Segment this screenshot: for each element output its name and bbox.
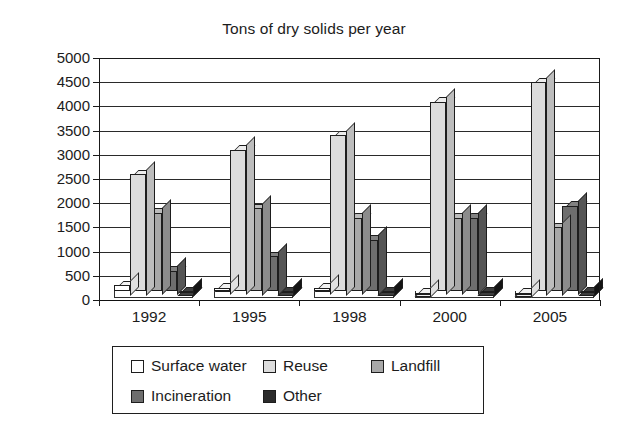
- y-axis-tick-mark: [93, 106, 99, 107]
- x-axis-tick-label: 2000: [400, 308, 500, 326]
- y-axis-tick-label: 500: [28, 268, 90, 283]
- y-axis-tick-label: 3000: [28, 147, 90, 162]
- legend-label: Landfill: [391, 357, 440, 375]
- y-axis-tick-label: 3500: [28, 123, 90, 138]
- x-axis-tick-mark: [99, 300, 100, 306]
- legend-label: Surface water: [151, 357, 247, 375]
- y-axis-tick-mark: [93, 203, 99, 204]
- legend-label: Other: [283, 387, 322, 405]
- x-axis-tick-mark: [400, 300, 401, 306]
- y-axis-tick-mark: [93, 82, 99, 83]
- plot-frame: [99, 58, 600, 300]
- y-axis-tick-mark: [93, 179, 99, 180]
- y-axis-tick-label: 1000: [28, 244, 90, 259]
- y-axis-tick-mark: [93, 276, 99, 277]
- y-axis-tick-mark: [93, 131, 99, 132]
- legend-swatch-icon: [131, 360, 144, 373]
- legend-swatch-icon: [371, 360, 384, 373]
- legend-entry[interactable]: Incineration: [131, 387, 231, 405]
- legend-entry[interactable]: Landfill: [371, 357, 440, 375]
- y-axis-tick-label: 5000: [28, 50, 90, 65]
- y-axis-tick-mark: [93, 155, 99, 156]
- legend-entry[interactable]: Reuse: [263, 357, 328, 375]
- legend-label: Reuse: [283, 357, 328, 375]
- y-axis-tick-label: 2500: [28, 171, 90, 186]
- y-axis-tick-label: 4000: [28, 98, 90, 113]
- legend-swatch-icon: [131, 390, 144, 403]
- legend-entry[interactable]: Surface water: [131, 357, 247, 375]
- x-axis-tick-label: 2005: [500, 308, 600, 326]
- y-axis-tick-mark: [93, 227, 99, 228]
- legend-row-2: IncinerationOther: [113, 381, 483, 411]
- legend-swatch-icon: [263, 390, 276, 403]
- legend-label: Incineration: [151, 387, 231, 405]
- chart-title: Tons of dry solids per year: [0, 20, 628, 38]
- legend-swatch-icon: [263, 360, 276, 373]
- x-axis-tick-label: 1995: [199, 308, 299, 326]
- y-axis-tick-labels: 0500100015002000250030003500400045005000: [20, 0, 90, 432]
- y-axis-tick-mark: [93, 300, 99, 301]
- x-axis-tick-mark: [299, 300, 300, 306]
- y-axis-tick-label: 1500: [28, 219, 90, 234]
- y-axis-tick-label: 2000: [28, 195, 90, 210]
- x-axis-tick-label: 1998: [299, 308, 399, 326]
- x-axis-tick-mark: [500, 300, 501, 306]
- legend-row-1: Surface waterReuseLandfill: [113, 351, 483, 381]
- y-axis-tick-mark: [93, 58, 99, 59]
- chart-legend: Surface waterReuseLandfill IncinerationO…: [112, 346, 484, 414]
- y-axis-tick-label: 0: [28, 292, 90, 307]
- chart-figure: Tons of dry solids per year 050010001500…: [0, 0, 628, 432]
- x-axis-tick-mark: [199, 300, 200, 306]
- y-axis-tick-mark: [93, 252, 99, 253]
- y-axis-tick-label: 4500: [28, 74, 90, 89]
- x-axis-tick-label: 1992: [99, 308, 199, 326]
- x-axis-baseline: [99, 300, 600, 301]
- legend-entry[interactable]: Other: [263, 387, 322, 405]
- plot-area: [99, 58, 600, 300]
- x-axis-tick-mark: [600, 300, 601, 306]
